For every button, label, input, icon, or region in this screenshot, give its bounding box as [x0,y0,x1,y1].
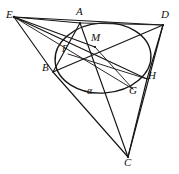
point-label-G: G [129,85,137,96]
segment-M-G [95,47,133,89]
segment-E-G [14,17,133,89]
point-label-D: D [161,9,169,20]
vertex-dot-A [79,22,81,24]
angle-label-alpha: α [87,86,92,96]
point-label-C: C [124,157,131,168]
vertex-dot-E [13,16,16,19]
point-label-M: M [91,32,100,43]
segment-E-D [14,17,163,25]
geometry-figure: E A D M F B H G C α [0,0,179,174]
point-label-H: H [148,70,156,81]
point-label-E: E [6,9,13,20]
point-label-B: B [42,62,49,73]
segment-F-H [68,54,147,79]
segment-B-D [53,25,163,72]
vertex-dot-M [94,46,96,48]
vertex-dot-D [162,24,164,26]
point-label-F: F [62,45,68,55]
point-label-A: A [76,6,83,17]
